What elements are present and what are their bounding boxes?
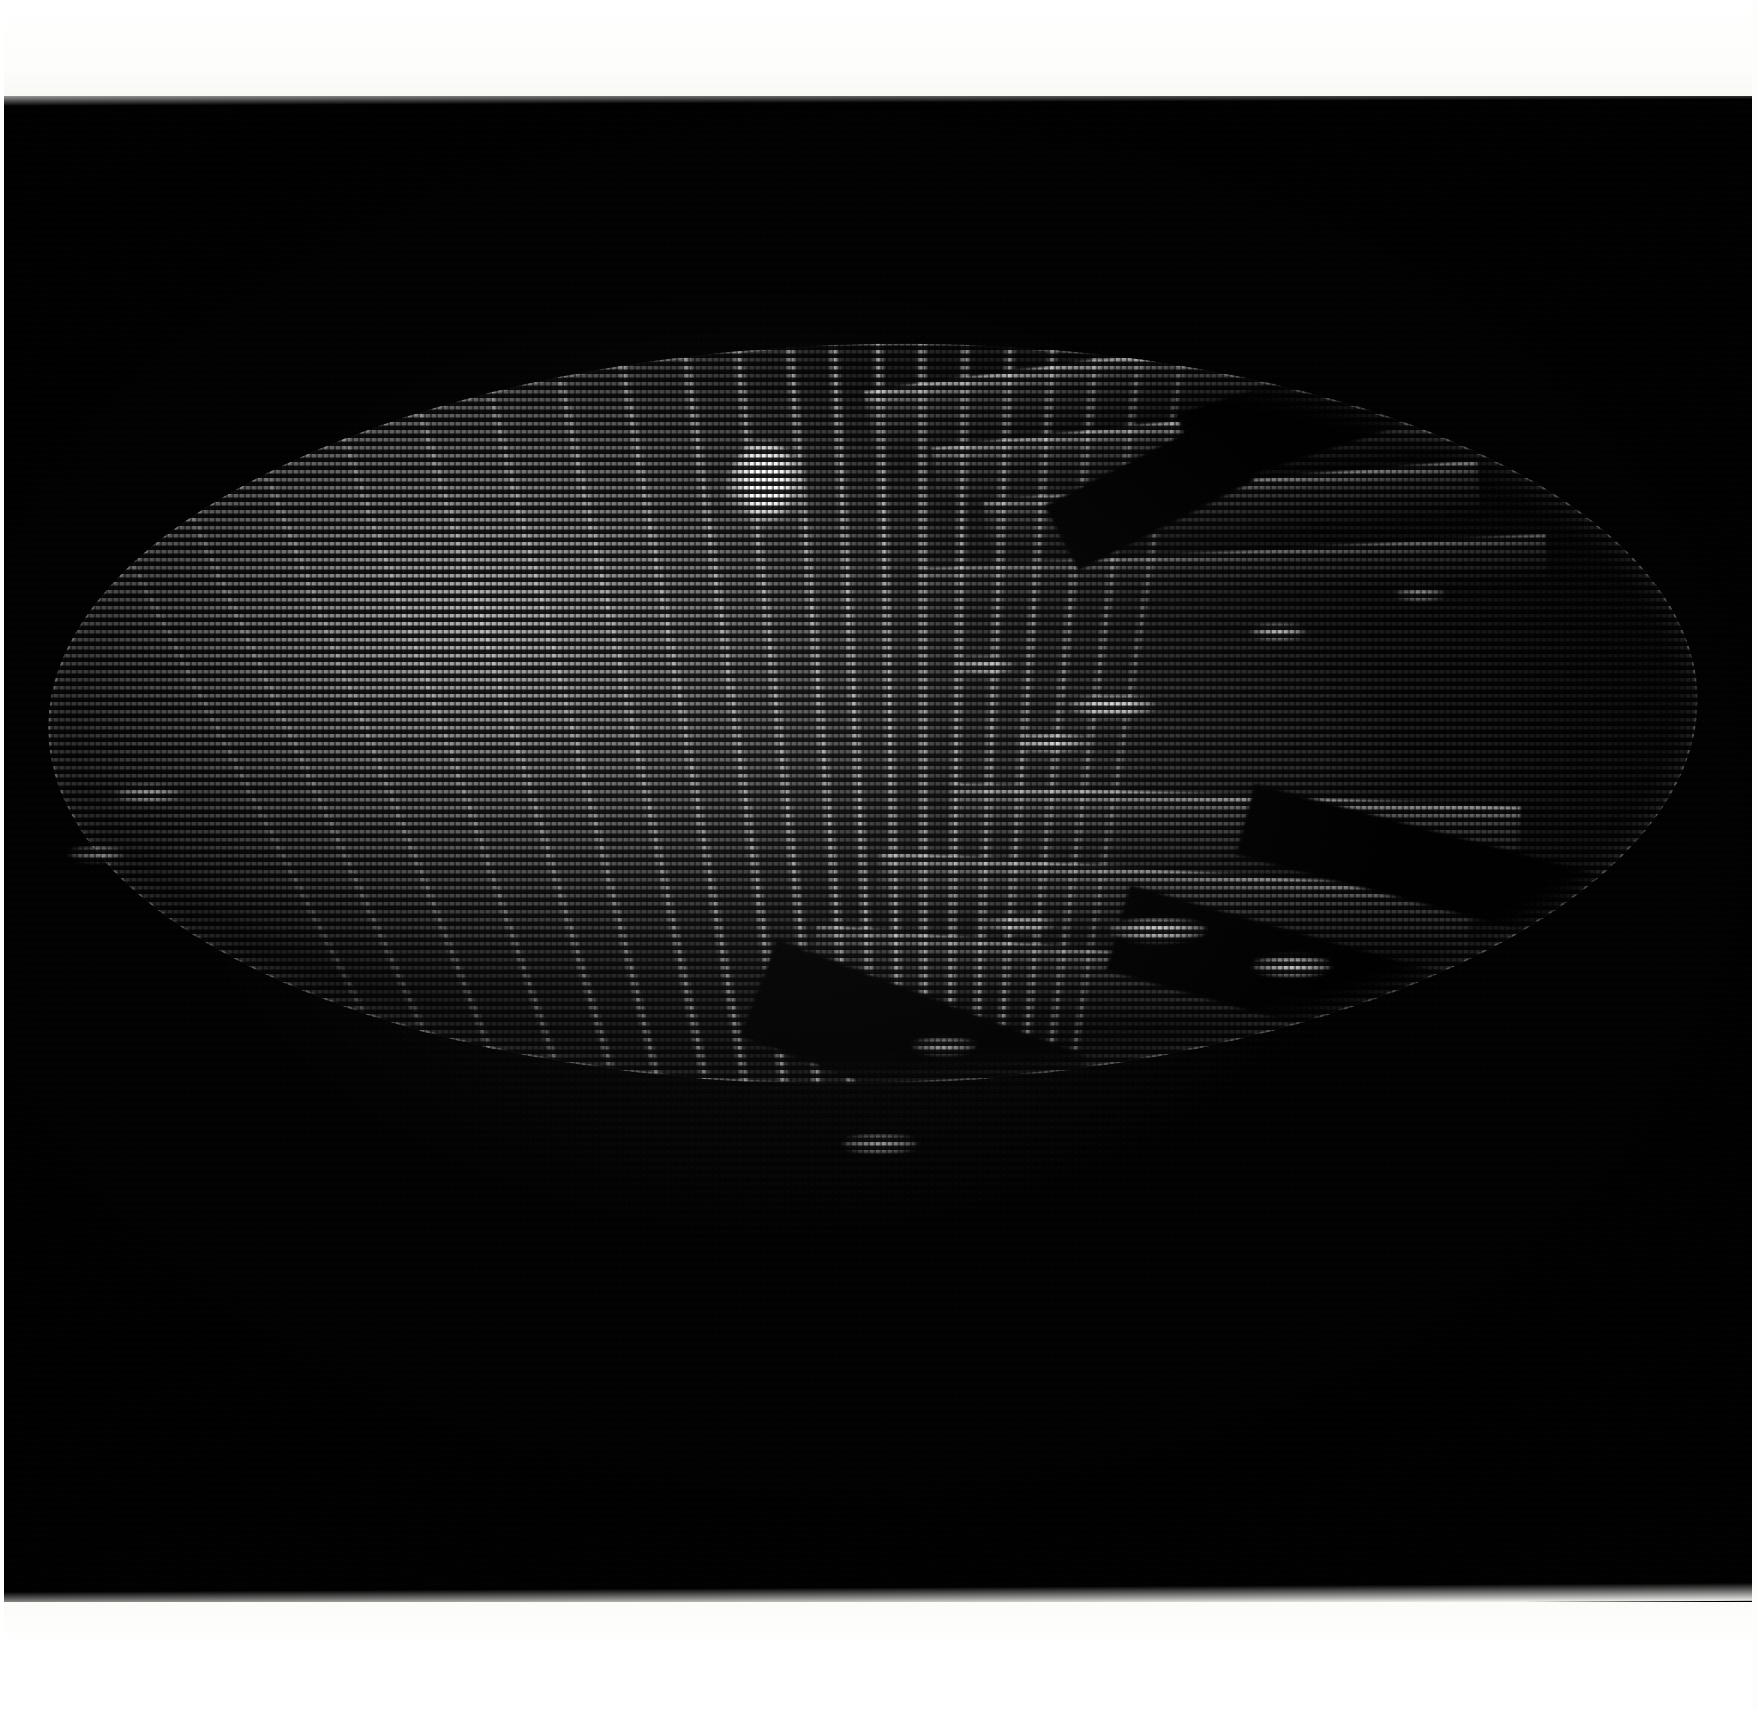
shaded-sphere-surface bbox=[40, 327, 1705, 1101]
fold-glint bbox=[913, 1037, 975, 1055]
fold-glint bbox=[1396, 587, 1444, 601]
crt-screen bbox=[0, 94, 1758, 1606]
fold-glint bbox=[1251, 624, 1305, 640]
fold-glint bbox=[1110, 918, 1206, 942]
fold-glint bbox=[1069, 695, 1155, 717]
specular-highlight-core bbox=[744, 462, 788, 522]
fold-glint bbox=[985, 915, 1055, 933]
fold-glint bbox=[69, 846, 123, 862]
fold-glint bbox=[1253, 955, 1331, 977]
screenshot-root bbox=[0, 0, 1758, 1710]
fold-glint bbox=[116, 785, 180, 803]
surface-render-stage bbox=[0, 94, 1758, 1606]
photo-left-margin bbox=[0, 0, 4, 1710]
fold-glint bbox=[1017, 732, 1087, 752]
photo-top-margin bbox=[0, 0, 1758, 96]
fold-glint bbox=[843, 1134, 917, 1154]
fold-glint bbox=[956, 657, 1014, 675]
photo-bottom-margin bbox=[0, 1602, 1758, 1710]
photo-right-margin bbox=[1752, 0, 1758, 1710]
